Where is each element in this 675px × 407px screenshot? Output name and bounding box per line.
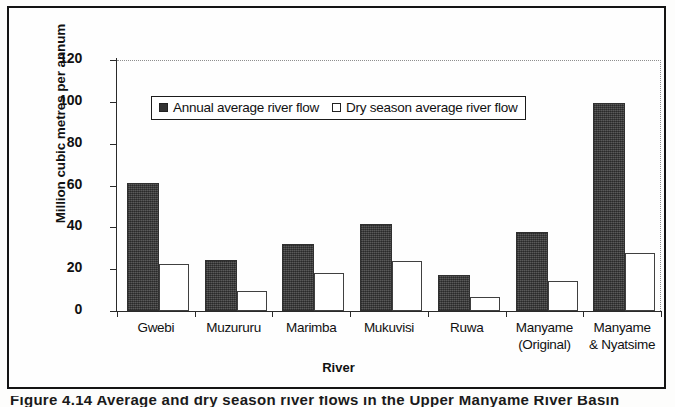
legend-label-annual: Annual average river flow (173, 100, 319, 115)
bar-dry-season-average (548, 281, 578, 311)
x-axis-line (116, 311, 662, 312)
y-axis-tick-label: 100 (22, 92, 82, 108)
legend-entry-dry-season: Dry season average river flow (332, 100, 517, 115)
x-axis-tick (583, 311, 584, 317)
legend-swatch-light-icon (332, 103, 341, 112)
bar-annual-average (360, 224, 392, 311)
scanned-page: Million cubic metres per annum 120100806… (0, 0, 675, 407)
bar-dry-season-average (237, 291, 267, 311)
x-axis-tick (661, 311, 662, 317)
y-axis-tick-label: 20 (22, 259, 82, 275)
bar-dry-season-average (470, 297, 500, 311)
y-axis-tick (110, 269, 117, 270)
y-axis-tick-label: 40 (22, 217, 82, 233)
bar-dry-season-average (625, 253, 655, 311)
y-axis-tick (110, 102, 117, 103)
bar-dry-season-average (159, 264, 189, 311)
y-axis-tick (110, 227, 117, 228)
y-axis-title: Million cubic metres per annum (53, 0, 68, 254)
plot-top-border (117, 60, 661, 61)
x-axis-category-label: Manyame& Nyatsime (575, 319, 669, 353)
y-axis-tick-label: 120 (22, 50, 82, 66)
chart-legend: Annual average river flow Dry season ave… (151, 96, 526, 120)
y-axis-tick (110, 144, 117, 145)
x-axis-tick (506, 311, 507, 317)
bar-annual-average (516, 232, 548, 311)
legend-label-dry-season: Dry season average river flow (346, 100, 517, 115)
x-axis-tick (195, 311, 196, 317)
plot-right-border (660, 60, 661, 311)
bar-annual-average (205, 260, 237, 311)
x-axis-tick (117, 311, 118, 317)
y-axis-tick-label: 60 (22, 176, 82, 192)
y-axis-tick-label: 0 (22, 301, 82, 317)
bar-annual-average (282, 244, 314, 311)
figure-frame: Million cubic metres per annum 120100806… (7, 6, 666, 389)
bar-dry-season-average (314, 273, 344, 311)
x-axis-category-label-line: Manyame (575, 319, 669, 336)
figure-caption-text: Figure 4.14 Average and dry season river… (10, 396, 619, 407)
legend-swatch-dark-icon (159, 103, 168, 112)
bar-annual-average (593, 103, 625, 311)
y-axis-tick (110, 186, 117, 187)
legend-entry-annual: Annual average river flow (159, 100, 319, 115)
x-axis-category-label-line: & Nyatsime (575, 336, 669, 353)
y-axis-tick (110, 60, 117, 61)
y-axis-tick-label: 80 (22, 134, 82, 150)
bar-dry-season-average (392, 261, 422, 311)
x-axis-tick (428, 311, 429, 317)
bar-annual-average (127, 183, 159, 311)
x-axis-title: River (9, 360, 668, 375)
figure-caption-cropped: Figure 4.14 Average and dry season river… (0, 396, 675, 407)
x-axis-tick (272, 311, 273, 317)
x-axis-tick (350, 311, 351, 317)
bar-annual-average (438, 275, 470, 311)
y-axis-tick (110, 311, 117, 312)
